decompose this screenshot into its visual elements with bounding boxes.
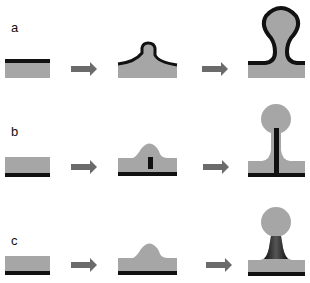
arrow-icon [203, 160, 229, 174]
arrow-icon [206, 258, 232, 272]
row-c [5, 207, 305, 276]
arrow-icon [71, 62, 97, 76]
c-step3-pinching-droplet [248, 207, 305, 276]
row-b [5, 104, 305, 177]
a-step1-flat-coated [5, 59, 50, 78]
process-diagram [0, 0, 310, 283]
arrow-icon [71, 258, 97, 272]
b-step2-bulge-rod [118, 144, 177, 176]
b-step1-flat [5, 157, 50, 177]
arrow-icon [202, 62, 228, 76]
a-step3-stalk-coated [248, 8, 305, 78]
c-step2-bulge [118, 244, 177, 275]
arrow-icon [71, 160, 97, 174]
row-a [5, 8, 305, 78]
a-step2-bump-coated [118, 43, 177, 78]
b-step3-rod-droplet [248, 104, 305, 177]
c-step1-flat [5, 256, 50, 275]
